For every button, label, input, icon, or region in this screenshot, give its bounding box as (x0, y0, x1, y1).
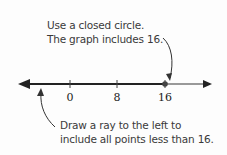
right-arrow-icon (203, 80, 212, 88)
bottom-annotation-line-2: include all points less than 16. (60, 132, 214, 146)
top-pointer-arrow-icon (163, 38, 172, 78)
tick-label-0: 0 (67, 91, 74, 104)
bottom-annotation: Draw a ray to the left to include all po… (60, 118, 214, 146)
tick-label-16: 16 (158, 91, 172, 104)
tick-label-8: 8 (114, 91, 121, 104)
bottom-annotation-line-1: Draw a ray to the left to (60, 118, 214, 132)
number-line-diagram: Use a closed circle. The graph includes … (0, 0, 227, 155)
bottom-pointer-arrow-icon (41, 93, 55, 127)
left-arrow-icon (18, 79, 30, 89)
closed-circle-icon (162, 81, 168, 87)
